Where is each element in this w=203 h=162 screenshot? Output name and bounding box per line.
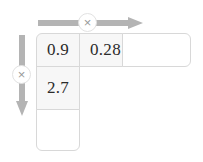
grid-cell-row1-col2[interactable]: 0.28 <box>79 33 123 67</box>
figure-canvas: × × 0.9 0.28 2.7 <box>0 0 203 162</box>
grid-cell-value: 2.7 <box>37 78 69 98</box>
grid-cell-value: 0.28 <box>80 40 121 60</box>
grid-cell-row1-col3[interactable] <box>122 33 191 67</box>
grid-cell-row3-col1[interactable] <box>36 109 80 151</box>
vertical-arrow-head <box>16 101 28 116</box>
grid-cell-value: 0.9 <box>37 40 69 60</box>
horizontal-arrow-head <box>128 17 143 29</box>
multiply-badge-horizontal: × <box>78 13 97 32</box>
grid-cell-row1-col1[interactable]: 0.9 <box>36 33 80 67</box>
grid-cell-row2-col1[interactable]: 2.7 <box>36 66 80 110</box>
value-grid: 0.9 0.28 2.7 <box>36 33 191 151</box>
multiply-badge-vertical: × <box>12 65 31 84</box>
